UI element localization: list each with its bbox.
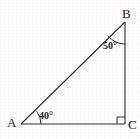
vertex-label-c: C <box>128 118 137 131</box>
vertex-label-b: B <box>122 7 131 20</box>
right-angle-marker-C <box>117 117 125 124</box>
geometry-figure: A B C 40° 50° <box>0 0 140 139</box>
angle-measure-a: 40° <box>39 111 53 121</box>
triangle-diagram <box>0 0 140 139</box>
angle-measure-b: 50° <box>103 41 117 51</box>
vertex-label-a: A <box>7 116 16 129</box>
